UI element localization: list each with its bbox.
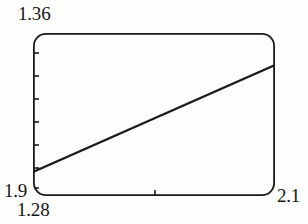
plot-area [33,33,275,196]
x-axis-max-label: 2.1 [277,186,300,205]
plot-frame [34,34,274,195]
x-axis-min-label: 1.9 [4,181,27,200]
y-axis-max-label: 1.36 [18,4,50,23]
plot-svg [33,33,275,196]
chart-figure: 1.36 1.9 1.28 2.1 [0,0,308,224]
y-axis-min-label: 1.28 [17,200,49,219]
data-series-line [33,65,275,172]
